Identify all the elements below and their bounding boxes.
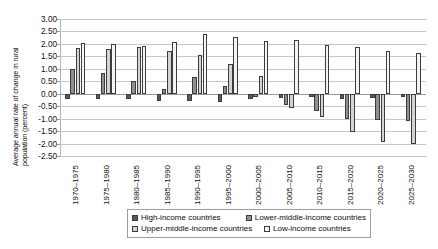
bar <box>137 47 142 94</box>
bar <box>370 94 375 98</box>
y-axis-tick-label: -0.50 <box>38 102 57 111</box>
bar <box>314 94 319 111</box>
bar <box>101 73 106 94</box>
x-axis-tick-label: 2025–2030 <box>407 165 416 205</box>
bar-group <box>396 19 427 156</box>
bar <box>264 41 269 93</box>
bar-group <box>274 19 305 156</box>
y-axis-tick-label: 1.50 <box>41 52 57 61</box>
x-axis-tick-cell: 1975–1980 <box>91 157 122 205</box>
x-axis-tick-label: 1990–1995 <box>193 165 202 205</box>
bar-group <box>365 19 396 156</box>
x-axis-tick-label: 1980–1985 <box>132 165 141 205</box>
bar <box>289 94 294 108</box>
legend-label: Lower-middle-income countries <box>255 212 366 223</box>
bar <box>162 89 167 94</box>
bar <box>106 49 111 94</box>
bar <box>126 94 131 99</box>
legend-item-lower-middle-income: Lower-middle-income countries <box>246 212 366 223</box>
legend-swatch-icon <box>132 215 138 221</box>
bar <box>381 94 386 143</box>
y-axis-tick-label: 2.50 <box>41 27 57 36</box>
bar <box>401 94 406 97</box>
bar <box>325 45 330 94</box>
legend-label: Upper-middle-income countries <box>141 223 252 234</box>
x-axis-tick-label: 1975–1980 <box>102 165 111 205</box>
x-axis-tick-cell: 2020–2025 <box>365 157 396 205</box>
x-axis-tick-label: 2005–2010 <box>285 165 294 205</box>
bar-group <box>60 19 91 156</box>
bar-group <box>304 19 335 156</box>
bar <box>172 42 177 94</box>
bar <box>167 51 172 94</box>
x-axis-tick-label: 2000–2005 <box>254 165 263 205</box>
legend-item-upper-middle-income: Upper-middle-income countries <box>132 223 264 234</box>
bar <box>187 94 192 101</box>
bar-group <box>243 19 274 156</box>
legend-item-high-income: High-income countries <box>132 212 246 223</box>
x-axis-tick-label: 1970–1975 <box>71 165 80 205</box>
x-axis-tick-label: 1985–1990 <box>163 165 172 205</box>
legend-swatch-icon <box>132 226 138 232</box>
bar <box>223 86 228 93</box>
x-axis-tick-cell: 2015–2020 <box>335 157 366 205</box>
y-axis-tick-label: 0.00 <box>41 89 57 98</box>
y-axis-title-line-1: Average annual rate of change in rural <box>11 48 20 166</box>
bar-group <box>213 19 244 156</box>
x-axis-tick-label: 2020–2025 <box>376 165 385 205</box>
bar <box>340 94 345 99</box>
legend-item-low-income: Low-income countries <box>264 223 351 234</box>
x-axis-tick-cell: 1980–1985 <box>121 157 152 205</box>
y-axis-tick-label: 2.00 <box>41 39 57 48</box>
bar <box>253 94 258 97</box>
bar <box>203 34 208 93</box>
y-axis-tick-label: 0.50 <box>41 77 57 86</box>
bar <box>406 94 411 121</box>
bar <box>416 53 421 93</box>
bar-group <box>91 19 122 156</box>
bar <box>355 47 360 94</box>
bar <box>157 94 162 101</box>
x-axis-tick-cell: 2005–2010 <box>274 157 305 205</box>
bar <box>81 43 86 94</box>
legend-swatch-icon <box>264 226 270 232</box>
plot-area <box>60 19 426 156</box>
x-axis-tick-cell: 2010–2015 <box>304 157 335 205</box>
bar <box>218 94 223 102</box>
x-axis-tick-cell: 1990–1995 <box>182 157 213 205</box>
legend-row-1: High-income countries Lower-middle-incom… <box>132 212 366 223</box>
bar <box>111 44 116 94</box>
bar <box>65 94 70 99</box>
bar <box>309 94 314 98</box>
x-axis-tick-cell: 2025–2030 <box>396 157 427 205</box>
x-axis-tick-cell: 1995–2000 <box>213 157 244 205</box>
bar-group <box>152 19 183 156</box>
bar <box>76 48 81 94</box>
x-axis-tick-cell: 1985–1990 <box>152 157 183 205</box>
x-axis-tick-label: 2010–2015 <box>315 165 324 205</box>
legend-label: High-income countries <box>141 212 221 223</box>
y-axis-tick-label: -2.00 <box>38 139 57 148</box>
bar <box>320 94 325 117</box>
legend-swatch-icon <box>246 215 252 221</box>
bar <box>259 76 264 94</box>
y-axis-tick-label: -1.50 <box>38 127 57 136</box>
chart-legend: High-income countries Lower-middle-incom… <box>127 209 371 238</box>
x-axis-tick-cell: 2000–2005 <box>243 157 274 205</box>
x-axis-tick-label: 1995–2000 <box>224 165 233 205</box>
bar <box>386 51 391 94</box>
bar <box>228 64 233 93</box>
x-axis-tick-cell: 1970–1975 <box>60 157 91 205</box>
bar <box>350 94 355 133</box>
y-axis-tick-label: 1.00 <box>41 64 57 73</box>
y-axis-tick-label: 3.00 <box>41 15 57 24</box>
bar <box>142 46 147 94</box>
bar-group <box>182 19 213 156</box>
bar <box>345 94 350 119</box>
y-axis-tick-label: -1.00 <box>38 114 57 123</box>
bar <box>375 94 380 120</box>
bar <box>411 94 416 144</box>
y-axis-tick-label: -2.50 <box>38 152 57 161</box>
bar <box>131 81 136 93</box>
y-axis-tick-labels: 3.002.502.001.501.000.500.00-0.50-1.00-1… <box>20 19 57 156</box>
